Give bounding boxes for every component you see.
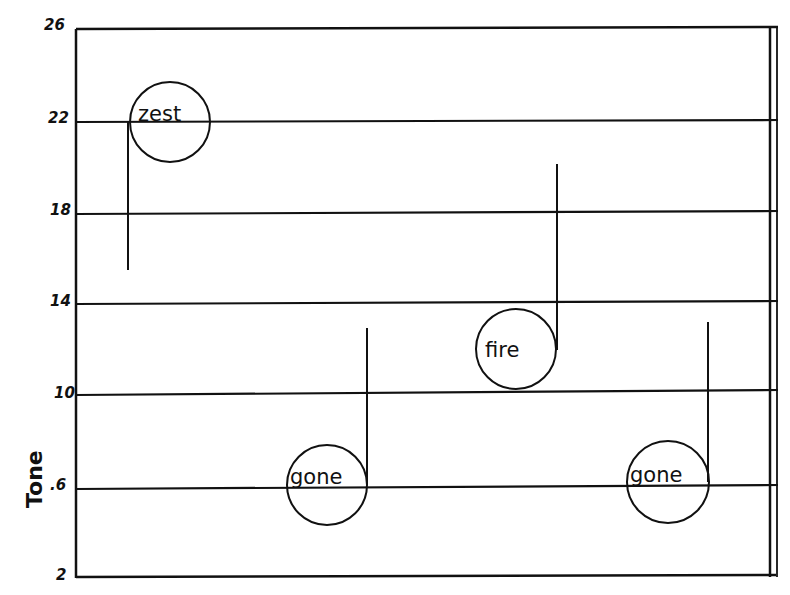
gridline-22: [76, 120, 778, 122]
tone-chart: 26 22 18 14 10 .6 2 Tone zest gone fire …: [0, 0, 790, 595]
note-label-gone-2: gone: [630, 463, 682, 487]
gridline-10: [76, 390, 778, 395]
note-label-zest: zest: [138, 102, 181, 126]
tick-14: 14: [50, 292, 71, 310]
note-gone-1: [287, 328, 367, 525]
tick-22: 22: [48, 109, 69, 127]
tick-10: 10: [54, 384, 75, 402]
gridline-14: [76, 301, 778, 304]
y-axis-label: Tone: [22, 450, 47, 508]
note-label-gone-1: gone: [290, 465, 342, 489]
gridlines: [76, 120, 778, 489]
y-tick-labels: 26 22 18 14 10 .6 2: [44, 16, 75, 584]
tick-6: .6: [50, 476, 66, 494]
note-label-fire: fire: [485, 338, 519, 362]
tick-2: 2: [56, 566, 66, 584]
tick-26: 26: [44, 16, 65, 34]
gridline-18: [76, 211, 778, 214]
note-gone-2: [627, 322, 709, 523]
tick-18: 18: [50, 201, 71, 219]
